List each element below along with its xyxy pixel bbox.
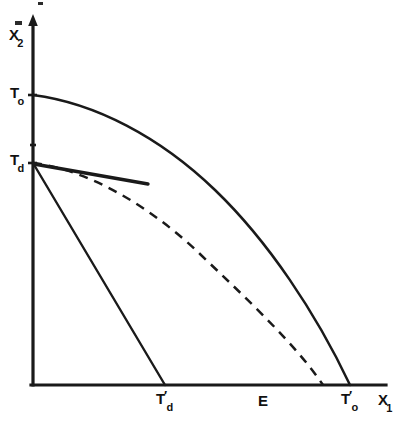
x-axis-label-subscript: 1 — [386, 402, 392, 414]
outer-transformation-curve — [33, 95, 350, 385]
label-t-d: Td — [10, 152, 25, 171]
label-t-zero-subscript: o — [17, 95, 23, 107]
scan-speck — [38, 2, 43, 5]
x-axis-label: X1 — [378, 392, 394, 411]
y-axis-label-subscript: 2 — [17, 37, 23, 49]
label-e-point: E — [258, 393, 268, 409]
scan-speck-secondary — [15, 21, 22, 25]
label-t-zero: To — [10, 85, 25, 104]
linear-transformation-line — [33, 163, 165, 385]
label-t-zero-prime: T′o — [341, 391, 359, 410]
label-t-d-prime-subscript: d — [166, 401, 172, 413]
inner-transformation-curve — [33, 163, 323, 385]
label-e-point-base: E — [258, 392, 268, 409]
label-t-d-prime: T′d — [156, 391, 174, 410]
price-tangent-line — [34, 164, 148, 184]
y-axis-arrowhead — [28, 14, 38, 26]
label-t-d-subscript: d — [17, 162, 23, 174]
label-t-zero-prime-subscript: o — [351, 401, 357, 413]
y-axis-label: X2 — [9, 27, 25, 46]
transformation-curve-chart — [0, 0, 411, 430]
figure-root: X2 X1 To Td T′d E T′o — [0, 0, 411, 430]
